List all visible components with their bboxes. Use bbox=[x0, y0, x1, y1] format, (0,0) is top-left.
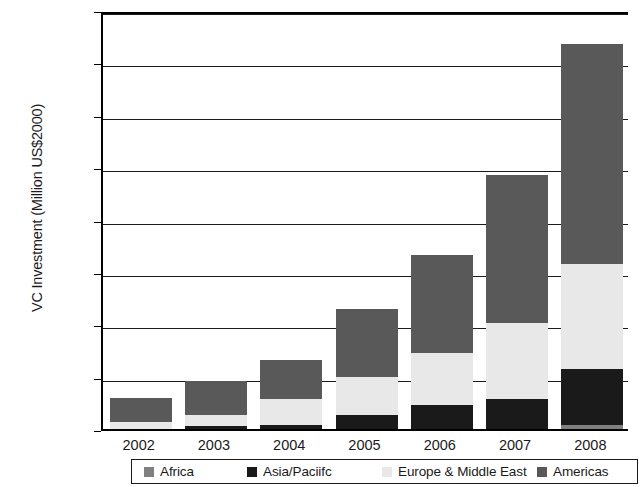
bars-group bbox=[103, 14, 628, 429]
bar-segment[interactable] bbox=[411, 255, 473, 353]
x-tick-label: 2007 bbox=[484, 437, 546, 453]
bar-stack[interactable] bbox=[185, 381, 247, 429]
square-swatch-icon bbox=[537, 467, 547, 477]
y-tick-mark bbox=[94, 169, 101, 170]
plot-area bbox=[101, 12, 628, 431]
bar-segment[interactable] bbox=[110, 422, 172, 429]
x-tick-label: 2004 bbox=[258, 437, 320, 453]
bar-segment[interactable] bbox=[260, 399, 322, 425]
legend-item-label: Asia/Paciifc bbox=[263, 464, 332, 479]
y-tick-mark bbox=[94, 379, 101, 380]
legend-item-label: Africa bbox=[160, 464, 194, 479]
x-tick-label: 2006 bbox=[409, 437, 471, 453]
bar-stack[interactable] bbox=[561, 44, 623, 429]
bar-segment[interactable] bbox=[185, 426, 247, 429]
bar-segment[interactable] bbox=[411, 405, 473, 429]
bar-segment[interactable] bbox=[486, 175, 548, 323]
legend-item-label: Europe & Middle East bbox=[398, 464, 527, 479]
x-tick-label: 2003 bbox=[183, 437, 245, 453]
x-tick-label: 2008 bbox=[559, 437, 621, 453]
square-swatch-icon bbox=[382, 467, 392, 477]
bar-segment[interactable] bbox=[185, 381, 247, 415]
bar-stack[interactable] bbox=[486, 175, 548, 429]
bar-segment[interactable] bbox=[185, 415, 247, 427]
bar-segment[interactable] bbox=[486, 323, 548, 399]
bar-segment[interactable] bbox=[336, 309, 398, 377]
bar-segment[interactable] bbox=[561, 425, 623, 429]
bar-segment[interactable] bbox=[561, 44, 623, 264]
bar-segment[interactable] bbox=[411, 353, 473, 405]
y-tick-mark bbox=[94, 117, 101, 118]
y-tick-mark bbox=[94, 431, 101, 432]
bar-segment[interactable] bbox=[260, 425, 322, 429]
bar-segment[interactable] bbox=[336, 415, 398, 429]
bar-stack[interactable] bbox=[336, 309, 398, 429]
legend-item[interactable]: Africa bbox=[144, 464, 194, 479]
bar-stack[interactable] bbox=[260, 360, 322, 429]
x-tick-label: 2005 bbox=[334, 437, 396, 453]
legend-item[interactable]: Americas bbox=[537, 464, 608, 479]
legend-item[interactable]: Asia/Paciifc bbox=[247, 464, 332, 479]
legend-item-label: Americas bbox=[553, 464, 608, 479]
y-tick-mark bbox=[94, 64, 101, 65]
square-swatch-icon bbox=[144, 467, 154, 477]
chart-legend: AfricaAsia/PaciifcEurope & Middle EastAm… bbox=[131, 459, 638, 484]
bar-segment[interactable] bbox=[336, 377, 398, 415]
bar-segment[interactable] bbox=[486, 399, 548, 429]
bar-segment[interactable] bbox=[561, 369, 623, 425]
vc-investment-stacked-bar-chart: VC Investment (Million US$2000) 02468101… bbox=[0, 0, 644, 487]
bar-segment[interactable] bbox=[260, 360, 322, 399]
y-tick-mark bbox=[94, 12, 101, 13]
bar-segment[interactable] bbox=[561, 264, 623, 369]
square-swatch-icon bbox=[247, 467, 257, 477]
bar-stack[interactable] bbox=[411, 255, 473, 429]
bar-segment[interactable] bbox=[110, 398, 172, 423]
y-tick-mark bbox=[94, 326, 101, 327]
bar-stack[interactable] bbox=[110, 398, 172, 429]
y-tick-mark bbox=[94, 222, 101, 223]
legend-item[interactable]: Europe & Middle East bbox=[382, 464, 527, 479]
y-tick-mark bbox=[94, 274, 101, 275]
y-axis-title: VC Investment (Million US$2000) bbox=[29, 78, 45, 338]
x-tick-label: 2002 bbox=[108, 437, 170, 453]
